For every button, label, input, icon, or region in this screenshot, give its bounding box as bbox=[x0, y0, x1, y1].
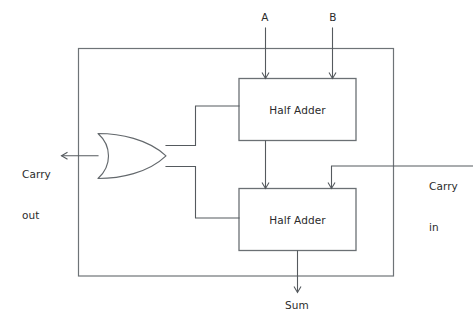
input-label-a: A bbox=[261, 11, 268, 24]
input-label-carry-in: Carry in bbox=[429, 153, 458, 261]
output-label-carry-out-line2: out bbox=[22, 209, 51, 223]
output-label-carry-out: Carry out bbox=[22, 141, 51, 249]
full-adder-diagram bbox=[0, 0, 473, 327]
input-label-carry-in-line2: in bbox=[429, 221, 458, 235]
output-label-sum: Sum bbox=[285, 299, 309, 312]
half-adder-top-label: Half Adder bbox=[269, 104, 325, 116]
input-label-b: B bbox=[329, 11, 336, 24]
wire-bottom-carry-to-or bbox=[166, 167, 239, 219]
wire-top-carry-to-or bbox=[166, 106, 239, 146]
input-label-carry-in-line1: Carry bbox=[429, 180, 458, 194]
half-adder-bottom-label: Half Adder bbox=[269, 214, 325, 226]
output-label-carry-out-line1: Carry bbox=[22, 168, 51, 182]
diagram-canvas: A B Carry out Carry in Sum Half Adder Ha… bbox=[0, 0, 473, 327]
or-gate-shape[interactable] bbox=[98, 134, 166, 179]
full-adder-boundary bbox=[79, 49, 394, 277]
